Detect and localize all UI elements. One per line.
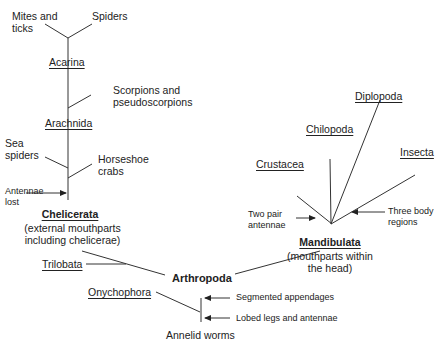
mandibulata-label: Mandibulata (290, 236, 370, 248)
three-body-regions-label: Three bodyregions (388, 206, 434, 228)
onychophora-label: Onychophora (88, 286, 151, 298)
two-pair-antennae-label: Two pairantennae (248, 209, 286, 231)
arthropoda-label: Arthropoda (172, 272, 232, 284)
lobed-legs-label: Lobed legs and antennae (236, 313, 338, 324)
trilobata-label: Trilobata (42, 258, 82, 270)
segmented-appendages-label: Segmented appendages (236, 292, 334, 303)
crustacea-label: Crustacea (256, 158, 304, 170)
diplopoda-label: Diplopoda (355, 90, 402, 102)
chelicerata-desc: (external mouthpartsincluding chelicerae… (10, 222, 135, 246)
tree-lines (0, 0, 439, 346)
chilopoda-label: Chilopoda (306, 123, 353, 135)
insecta-label: Insecta (400, 146, 434, 158)
spiders-label: Spiders (92, 10, 128, 22)
sea-spiders-label: Seaspiders (5, 137, 39, 161)
phylogeny-diagram: Mites andticks Spiders Acarina Scorpions… (0, 0, 439, 346)
scorpions-label: Scorpions andpseudoscorpions (113, 84, 192, 108)
chelicerata-label: Chelicerata (30, 208, 110, 220)
mandibulata-desc: (mouthparts withinthe head) (270, 250, 390, 274)
arachnida-label: Arachnida (45, 117, 92, 129)
acarina-label: Acarina (49, 56, 85, 68)
horseshoe-label: Horseshoecrabs (98, 153, 149, 177)
antennae-lost-label: Antennaelost (5, 186, 44, 208)
mites-label: Mites andticks (12, 10, 58, 34)
annelid-worms-label: Annelid worms (166, 329, 235, 341)
